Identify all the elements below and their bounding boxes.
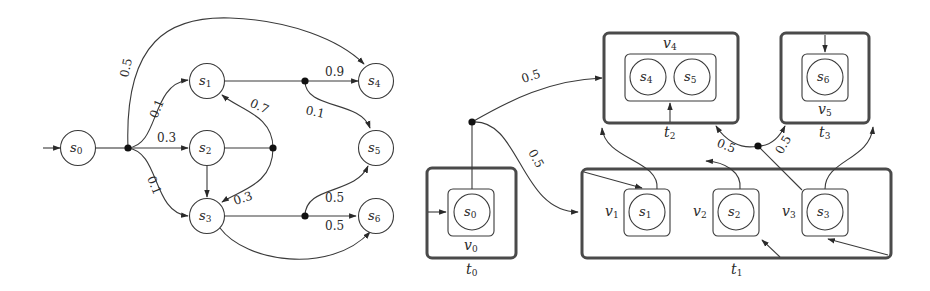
state-s0: s0	[61, 131, 96, 166]
junction-dot	[301, 212, 308, 219]
svg-text:v4: v4	[663, 35, 677, 52]
prob-label: 0.5	[325, 191, 344, 205]
svg-text:v3: v3	[782, 203, 796, 220]
svg-text:v5: v5	[818, 101, 832, 118]
prob-label: 0.9	[325, 65, 344, 79]
self-arrow	[762, 240, 780, 257]
svg-text:v0: v0	[464, 237, 478, 254]
right-quotient: s0 v0 t0 s1 v1 s2 v2 s3 v3 t1	[427, 33, 891, 278]
self-arrow	[828, 239, 888, 255]
svg-text:t1: t1	[731, 261, 742, 278]
state-s5: s5	[359, 131, 394, 166]
svg-text:t3: t3	[819, 124, 831, 141]
state-s4: s4	[359, 64, 394, 99]
box-t3: s6 v5 t3	[781, 33, 869, 141]
prob-label: 0.5	[117, 57, 135, 79]
edge-junction-t2	[472, 78, 602, 122]
state-s2: s2	[190, 131, 225, 166]
state-s1: s1	[190, 64, 225, 99]
junction-dot	[468, 118, 475, 125]
prob-label: 0.5	[325, 219, 344, 233]
svg-text:v1: v1	[605, 203, 619, 220]
state-s6: s6	[359, 199, 394, 234]
edge-junction-s4	[128, 18, 364, 148]
svg-text:v2: v2	[693, 203, 707, 220]
state-s3: s3	[190, 199, 225, 234]
prob-label: 0.5	[715, 136, 738, 156]
junction-dot	[754, 142, 761, 149]
prob-label: 0.1	[147, 97, 167, 120]
svg-text:t2: t2	[664, 124, 675, 141]
diagram-svg: s0 s1 s2 s3 s4 s5 s6 0.5 0.1 0.3 0.	[0, 0, 930, 291]
prob-label: 0.3	[232, 189, 254, 208]
prob-label: 0.7	[248, 96, 271, 117]
junction-dot	[124, 144, 131, 151]
edge-s3-s6	[220, 228, 370, 259]
diagram-canvas: s0 s1 s2 s3 s4 s5 s6 0.5 0.1 0.3 0.	[0, 0, 930, 291]
junction-dot	[301, 77, 308, 84]
svg-text:t0: t0	[466, 261, 478, 278]
prob-label: 0.3	[157, 131, 176, 145]
prob-label: 0.5	[772, 133, 794, 157]
edge-s1-t2	[602, 128, 657, 189]
prob-label: 0.1	[304, 103, 326, 121]
junction-dot	[269, 144, 276, 151]
prob-label: 0.5	[520, 67, 542, 86]
self-arrow	[584, 172, 642, 188]
edge-s3-t3	[825, 127, 873, 189]
box-t2: s4 s5 v4 t2	[604, 33, 738, 141]
box-t1: s1 v1 s2 v2 s3 v3 t1	[582, 169, 891, 278]
prob-label: 0.5	[525, 147, 546, 170]
left-automaton: s0 s1 s2 s3 s4 s5 s6 0.5 0.1 0.3 0.	[43, 18, 394, 259]
edge-s2-t1	[706, 161, 740, 189]
